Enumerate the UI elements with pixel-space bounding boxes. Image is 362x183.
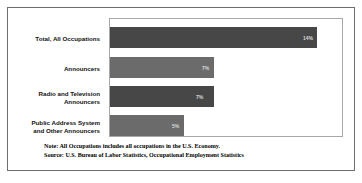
category-label-line: Radio and Television	[39, 90, 100, 97]
category-label-announcers: Announcers	[8, 65, 104, 73]
bars-layer: 14% 7% 7% 5%	[110, 19, 342, 136]
category-label-line: and Other Announcers	[33, 127, 100, 134]
bar-value-label: 14%	[303, 35, 313, 40]
category-label-line: Public Address System	[31, 119, 100, 126]
bar-total-all-occupations[interactable]	[110, 27, 317, 48]
note-text: Note: All Occupations includes all occup…	[44, 142, 344, 151]
source-text: Source: U.S. Bureau of Labor Statistics,…	[44, 151, 344, 160]
plot-area: 14% 7% 7% 5%	[109, 18, 343, 137]
category-label-line: Announcers	[64, 98, 100, 105]
category-label-total-all-occupations: Total, All Occupations	[8, 35, 104, 43]
footnotes: Note: All Occupations includes all occup…	[44, 142, 344, 159]
bar-value-label: 7%	[202, 65, 209, 70]
bar-announcers[interactable]	[110, 57, 214, 78]
category-label-public-address-system-and-other-announcers: Public Address System and Other Announce…	[8, 119, 104, 134]
figure-panel: 14% 7% 7% 5% Total, All Occupations Anno…	[7, 7, 355, 171]
bar-value-label: 5%	[172, 123, 179, 128]
category-label-radio-and-television-announcers: Radio and Television Announcers	[8, 90, 104, 105]
bar-value-label: 7%	[196, 94, 203, 99]
